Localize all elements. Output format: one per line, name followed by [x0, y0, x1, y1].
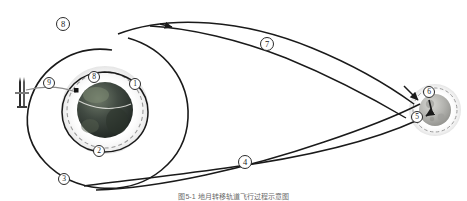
- marker-1-label: 1: [133, 80, 137, 88]
- moon-crater-b: [438, 114, 445, 121]
- earth-landmass-a: [83, 87, 109, 103]
- marker-2[interactable]: 2: [93, 145, 105, 157]
- marker-3[interactable]: 3: [58, 173, 70, 185]
- marker-4[interactable]: 4: [238, 155, 252, 169]
- moon-crater-c: [430, 117, 435, 122]
- outbound-transfer-path: [118, 22, 414, 104]
- marker-7[interactable]: 7: [260, 37, 274, 51]
- moon-body: [419, 94, 451, 126]
- marker-2-label: 2: [97, 147, 101, 155]
- figure-caption: 图5-1 地月转移轨道飞行过程示意图: [0, 193, 467, 201]
- marker-8-inner[interactable]: 8: [88, 71, 100, 83]
- marker-9[interactable]: 9: [43, 77, 55, 89]
- marker-4-label: 4: [243, 158, 247, 167]
- trajectory-canvas: [0, 0, 467, 201]
- marker-9-label: 9: [47, 79, 51, 87]
- marker-8-inner-label: 8: [92, 73, 96, 81]
- marker-3-label: 3: [62, 175, 66, 183]
- lunar-trajectory-figure: 1 2 3 4 5 6 7 8 8 9 图5-1 地月转移轨道飞行过程示意图: [0, 0, 467, 201]
- marker-8-outer-label: 8: [61, 20, 65, 29]
- outbound-branch-path: [150, 26, 406, 118]
- marker-5[interactable]: 5: [411, 111, 423, 123]
- marker-8-outer[interactable]: 8: [56, 17, 70, 31]
- marker-6[interactable]: 6: [423, 86, 435, 98]
- marker-7-label: 7: [265, 40, 269, 49]
- marker-1[interactable]: 1: [129, 78, 141, 90]
- earth-landmass-c: [81, 119, 99, 133]
- marker-6-label: 6: [427, 88, 431, 96]
- launch-vehicle-icon: [15, 77, 29, 108]
- marker-5-label: 5: [415, 113, 419, 121]
- earth-landmass-b: [106, 108, 128, 134]
- injection-burn-marker: [74, 88, 79, 93]
